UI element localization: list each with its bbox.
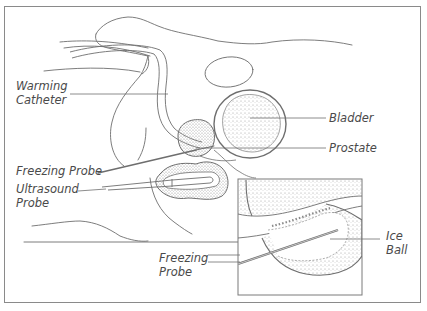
label-warming: Warming (16, 79, 68, 93)
label-catheter: Catheter (16, 93, 68, 107)
label-ball: Ball (386, 243, 407, 257)
label-bladder: Bladder (329, 111, 374, 125)
buttock-outline (96, 34, 149, 166)
pubic-bone (204, 55, 255, 90)
label-freezing-probe: Freezing Probe (16, 164, 102, 178)
lower-body-contour (32, 221, 148, 241)
label-ice-ball: Ice Ball (386, 229, 407, 257)
leader-ultrasound (78, 189, 106, 191)
label-inset-freezing: Freezing (159, 251, 208, 265)
label-inset-freezing-probe: Freezing Probe (159, 251, 208, 279)
label-ultrasound: Ultrasound (16, 182, 79, 196)
anatomy-illustration (0, 0, 427, 311)
ice-ball-inset (238, 179, 362, 295)
label-prostate: Prostate (329, 141, 377, 155)
label-warming-catheter: Warming Catheter (16, 79, 68, 107)
body-outline-top (96, 17, 352, 45)
label-ultrasound-probe: Ultrasound Probe (16, 182, 79, 210)
label-ice: Ice (386, 229, 407, 243)
label-probe: Probe (16, 196, 79, 210)
label-inset-probe: Probe (159, 265, 208, 279)
